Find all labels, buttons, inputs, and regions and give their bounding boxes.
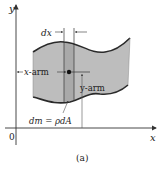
y-axis-label: y: [8, 3, 15, 14]
diagram: y x 0 dx x-arm y-arm dm = ρdA (a): [0, 0, 162, 173]
dm-equation: dm = ρdA: [29, 116, 72, 126]
y-arm-label: y-arm: [79, 83, 105, 93]
x-axis-label: x: [150, 132, 156, 143]
x-arm-label: x-arm: [24, 67, 49, 77]
figure-caption: (a): [76, 153, 88, 163]
element-centroid-dot: [67, 70, 71, 74]
origin-label: 0: [9, 132, 15, 142]
dx-label: dx: [41, 28, 52, 38]
